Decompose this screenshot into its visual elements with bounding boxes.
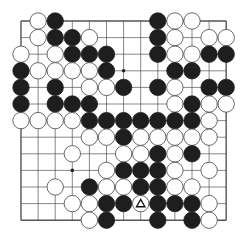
black-stone — [150, 179, 166, 195]
black-stone — [167, 112, 183, 128]
black-stone — [13, 96, 29, 112]
white-stone — [184, 129, 200, 145]
black-stone — [47, 13, 63, 29]
white-stone — [64, 195, 80, 211]
white-stone — [218, 96, 234, 112]
white-stone — [81, 129, 97, 145]
black-stone — [150, 146, 166, 162]
white-stone — [98, 129, 114, 145]
white-stone — [167, 96, 183, 112]
black-stone — [115, 79, 131, 95]
white-stone — [167, 13, 183, 29]
white-stone — [218, 29, 234, 45]
black-stone — [150, 13, 166, 29]
black-stone — [47, 29, 63, 45]
black-stone — [98, 63, 114, 79]
white-stone — [167, 179, 183, 195]
white-stone — [201, 129, 217, 145]
black-stone — [81, 179, 97, 195]
black-stone — [184, 112, 200, 128]
black-stone — [115, 129, 131, 145]
black-stone — [115, 112, 131, 128]
white-stone — [184, 179, 200, 195]
black-stone — [150, 195, 166, 211]
white-stone — [167, 79, 183, 95]
white-stone — [30, 112, 46, 128]
black-stone — [184, 195, 200, 211]
black-stone — [150, 29, 166, 45]
white-stone — [133, 146, 149, 162]
white-stone — [30, 13, 46, 29]
black-stone — [201, 46, 217, 62]
white-stone — [98, 79, 114, 95]
white-stone — [133, 195, 149, 211]
black-stone — [98, 112, 114, 128]
white-stone — [201, 162, 217, 178]
white-stone — [133, 129, 149, 145]
white-stone — [201, 29, 217, 45]
black-stone — [184, 212, 200, 228]
black-stone — [81, 96, 97, 112]
white-stone — [167, 29, 183, 45]
black-stone — [98, 212, 114, 228]
go-board[interactable] — [0, 0, 249, 237]
white-stone — [201, 112, 217, 128]
black-stone — [47, 96, 63, 112]
black-stone — [218, 79, 234, 95]
white-stone — [64, 63, 80, 79]
white-stone — [81, 29, 97, 45]
white-stone — [167, 46, 183, 62]
black-stone — [64, 46, 80, 62]
black-stone — [184, 96, 200, 112]
white-stone — [13, 46, 29, 62]
white-stone — [47, 179, 63, 195]
star-point — [122, 69, 126, 73]
black-stone — [167, 63, 183, 79]
black-stone — [98, 46, 114, 62]
white-stone — [115, 146, 131, 162]
black-stone — [81, 112, 97, 128]
white-stone — [184, 46, 200, 62]
white-stone — [47, 112, 63, 128]
white-stone — [47, 63, 63, 79]
black-stone — [13, 79, 29, 95]
white-stone — [184, 13, 200, 29]
white-stone — [167, 129, 183, 145]
white-stone — [201, 212, 217, 228]
black-stone — [150, 46, 166, 62]
white-stone — [201, 96, 217, 112]
black-stone — [150, 212, 166, 228]
white-stone — [30, 63, 46, 79]
white-stone — [201, 195, 217, 211]
white-stone — [115, 179, 131, 195]
black-stone — [133, 162, 149, 178]
black-stone — [81, 46, 97, 62]
black-stone — [115, 162, 131, 178]
white-stone — [167, 146, 183, 162]
white-stone — [47, 46, 63, 62]
black-stone — [184, 63, 200, 79]
white-stone — [81, 212, 97, 228]
black-stone — [64, 29, 80, 45]
black-stone — [218, 46, 234, 62]
white-stone — [167, 162, 183, 178]
black-stone — [133, 179, 149, 195]
black-stone — [150, 112, 166, 128]
white-stone — [150, 129, 166, 145]
white-stone — [81, 195, 97, 211]
star-point — [71, 169, 75, 173]
black-stone — [13, 63, 29, 79]
white-stone — [64, 146, 80, 162]
black-stone — [98, 195, 114, 211]
white-stone — [81, 63, 97, 79]
white-stone — [64, 112, 80, 128]
black-stone — [133, 112, 149, 128]
black-stone — [184, 146, 200, 162]
black-stone — [201, 79, 217, 95]
black-stone — [167, 195, 183, 211]
white-stone — [81, 79, 97, 95]
white-stone — [98, 162, 114, 178]
black-stone — [64, 96, 80, 112]
white-stone — [98, 179, 114, 195]
white-stone — [13, 112, 29, 128]
